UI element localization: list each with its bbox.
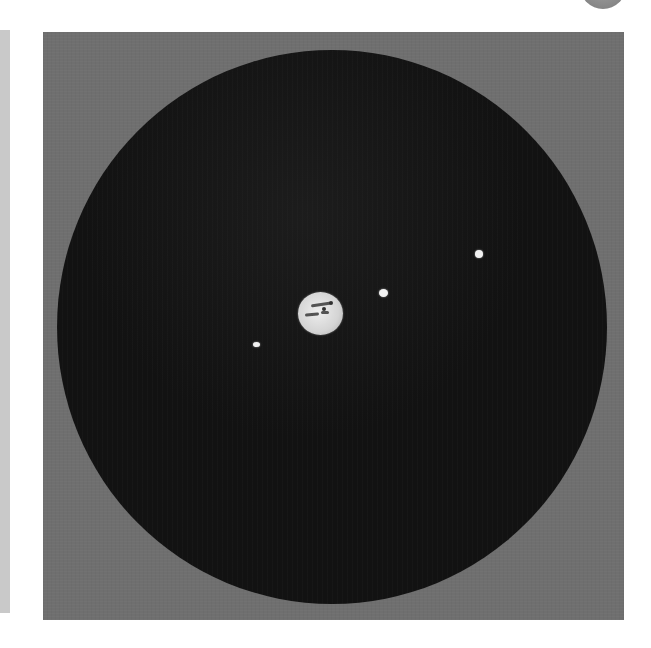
planet-belt: [305, 312, 319, 316]
planet-spot: [322, 307, 326, 311]
moon: [379, 289, 388, 297]
planet: [298, 292, 343, 335]
planet-belt: [321, 311, 329, 314]
corner-circle-decoration: [580, 0, 626, 9]
bleed-through-text: [40, 626, 640, 640]
moon: [475, 250, 483, 258]
page-edge-strip: [0, 30, 10, 613]
planet-spot: [329, 301, 333, 305]
moon: [253, 342, 260, 347]
